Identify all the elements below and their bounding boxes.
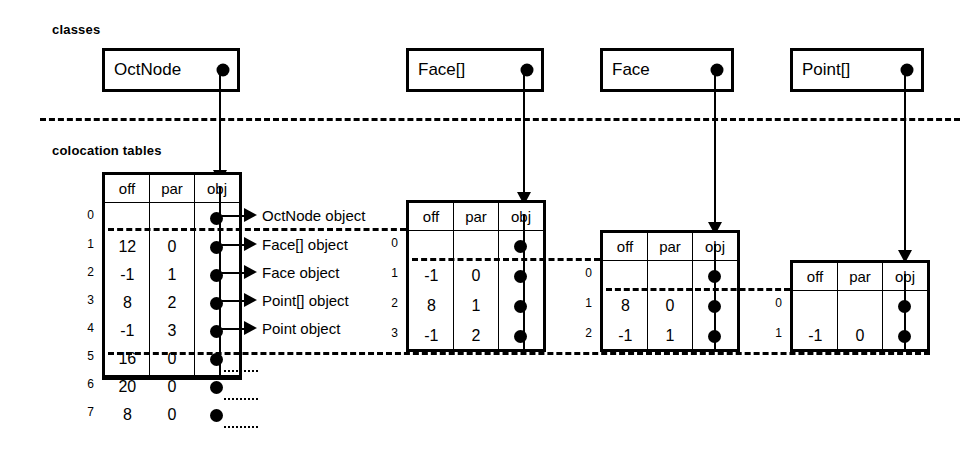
cell-obj	[498, 321, 543, 351]
cell-obj	[194, 289, 239, 317]
point-array-table[interactable]: off par obj -1 0	[790, 260, 930, 352]
column-header-obj: obj	[498, 203, 543, 230]
octnode-table[interactable]: off par obj 12 0 -1 1 8 2 -1 3	[102, 172, 242, 380]
table-row[interactable]: 8 0	[603, 291, 737, 321]
class-box-label: Face[]	[418, 60, 465, 80]
cell-par: 0	[648, 291, 693, 321]
column-header-obj: obj	[194, 175, 239, 202]
row-index: 0	[382, 236, 398, 250]
table-row[interactable]: -1 1	[603, 321, 737, 351]
row-index: 1	[78, 237, 94, 251]
pointer-spine-face-table	[714, 244, 716, 350]
pointer-line-face-object	[222, 272, 246, 274]
cell-off: 8	[105, 401, 150, 429]
class-box-label: OctNode	[114, 60, 181, 80]
row-index: 5	[78, 349, 94, 363]
table-header: off par obj	[603, 233, 737, 261]
row-index: 2	[576, 326, 592, 340]
column-header-par: par	[453, 203, 498, 230]
cell-par: 0	[150, 401, 195, 429]
arrow-head-face-object	[244, 265, 257, 279]
row-index: 2	[382, 296, 398, 310]
cell-par: 0	[454, 261, 499, 291]
table-row[interactable]	[603, 261, 737, 291]
object-label: Point[] object	[262, 292, 349, 309]
face-table[interactable]: off par obj 8 0 -1 1	[600, 230, 740, 352]
connector-face-array	[523, 70, 525, 195]
cell-obj	[194, 345, 239, 373]
pointer-spine-face-array-table	[523, 214, 525, 350]
column-header-off: off	[409, 203, 453, 230]
cell-off: -1	[105, 317, 150, 345]
row-index: 1	[576, 296, 592, 310]
cell-par	[648, 261, 693, 291]
diagram-canvas: classes colocation tables OctNode Face[]…	[0, 0, 962, 468]
cell-obj	[498, 231, 543, 261]
table-row[interactable]: 8 0	[105, 401, 239, 429]
filled-dot-icon	[210, 381, 223, 394]
cell-par: 0	[838, 321, 883, 351]
table-header: off par obj	[793, 263, 927, 291]
table-row[interactable]	[793, 291, 927, 321]
cell-off: -1	[793, 321, 838, 351]
cell-par: 2	[150, 289, 195, 317]
filled-dot-icon	[210, 212, 223, 225]
cell-par: 2	[454, 321, 499, 351]
row-index: 1	[766, 326, 782, 340]
cell-par: 3	[150, 317, 195, 345]
column-header-par: par	[647, 233, 692, 260]
cell-off: 8	[105, 289, 150, 317]
cell-obj	[498, 291, 543, 321]
row-index: 2	[78, 265, 94, 279]
object-label: Face object	[262, 264, 340, 281]
row-index: 1	[382, 266, 398, 280]
row-index: 0	[766, 296, 782, 310]
group-divider-3	[606, 288, 790, 291]
cell-off	[603, 261, 648, 291]
arrow-head-point-array-object	[244, 293, 257, 307]
cell-obj	[498, 261, 543, 291]
filled-dot-icon	[210, 241, 223, 254]
pointer-line-face-array-object	[222, 244, 246, 246]
object-label: OctNode object	[262, 207, 365, 224]
cell-off	[409, 231, 454, 261]
filled-dot-icon	[514, 330, 527, 343]
filled-dot-icon	[711, 64, 724, 77]
cell-obj	[194, 317, 239, 345]
row-index: 3	[382, 326, 398, 340]
cell-off: -1	[603, 321, 648, 351]
cell-off: -1	[105, 261, 150, 289]
arrow-head-point-object	[244, 321, 257, 335]
connector-point-array	[904, 70, 906, 253]
cell-par: 0	[150, 345, 195, 373]
cell-par: 1	[454, 291, 499, 321]
cell-off: -1	[409, 261, 454, 291]
pointer-spine-octnode-table	[219, 186, 221, 378]
table-row[interactable]: -1 0	[793, 321, 927, 351]
row-index: 0	[78, 208, 94, 222]
cell-obj	[194, 261, 239, 289]
pointer-spine-point-array-table	[904, 274, 906, 350]
filled-dot-icon	[514, 300, 527, 313]
filled-dot-icon	[210, 297, 223, 310]
row-index: 3	[78, 293, 94, 307]
group-divider-2	[412, 258, 600, 261]
row-index: 6	[78, 377, 94, 391]
classes-tables-divider	[40, 118, 960, 121]
column-header-off: off	[105, 175, 149, 202]
filled-dot-icon	[514, 270, 527, 283]
row-index: 7	[78, 405, 94, 419]
group-divider-1	[108, 228, 406, 231]
connector-octnode	[219, 70, 221, 173]
arrow-head-face-array-object	[244, 237, 257, 251]
face-array-table[interactable]: off par obj -1 0 8 1 -1 2	[406, 200, 546, 352]
connector-face	[714, 70, 716, 225]
pointer-stub-row7	[224, 426, 258, 428]
row-index: 0	[576, 266, 592, 280]
arrow-head-octnode-object	[244, 208, 257, 222]
section-label-colocation-tables: colocation tables	[52, 143, 162, 158]
cell-off: 16	[105, 345, 150, 373]
cell-par: 0	[150, 373, 195, 401]
cell-obj	[194, 401, 239, 429]
class-box-label: Point[]	[802, 60, 850, 80]
